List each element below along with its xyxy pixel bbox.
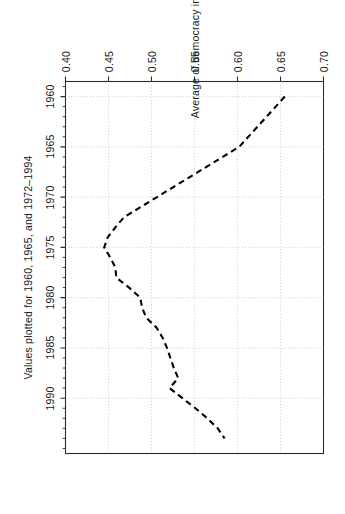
x-tick-label-1980: 1980 [43,285,55,309]
y-tick-label-050: 0.50 [145,50,157,71]
x-tick-label-1960: 1960 [43,84,55,108]
y-tick-label-060: 0.60 [231,50,243,71]
y-tick-label-070: 0.70 [317,50,329,71]
chart-figure: 1960 1965 1970 1975 1980 1985 1990 0.70 … [0,0,345,514]
x-tick-label-1975: 1975 [43,235,55,259]
y-axis-title: Average of democracy indicator [188,0,200,118]
rotated-chart-container: 1960 1965 1970 1975 1980 1985 1990 0.70 … [0,0,345,514]
x-axis-caption: Values plotted for 1960, 1965, and 1972–… [21,155,33,379]
plot-frame [65,81,323,453]
x-tick-label-1970: 1970 [43,185,55,209]
x-tick-label-1965: 1965 [43,134,55,158]
y-tick-label-040: 0.40 [59,50,71,71]
x-tick-label-1990: 1990 [43,386,55,410]
y-tick-label-065: 0.65 [274,50,286,71]
x-tick-label-1985: 1985 [43,335,55,359]
y-tick-label-045: 0.45 [102,50,114,71]
